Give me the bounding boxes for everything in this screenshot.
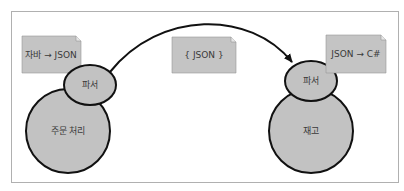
- message-note: { JSON }: [172, 37, 236, 73]
- inventory-label: 재고: [303, 126, 319, 136]
- right-note-text: JSON → C#: [330, 49, 380, 59]
- message-note-text: { JSON }: [184, 50, 223, 60]
- order-processing-label: 주문 처리: [51, 125, 86, 136]
- left-note-text: 자바 → JSON: [25, 50, 76, 60]
- left-note: 자바 → JSON: [22, 36, 81, 73]
- right-note: JSON → C#: [326, 35, 386, 73]
- left-parser-label: 파서: [82, 80, 98, 90]
- diagram-canvas: 자바 → JSON 주문 처리 파서 { JSON } 재고 파서 JSON →…: [0, 0, 404, 191]
- right-parser-label: 파서: [303, 76, 319, 86]
